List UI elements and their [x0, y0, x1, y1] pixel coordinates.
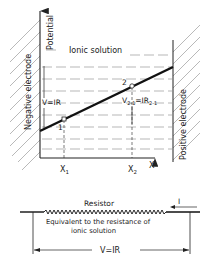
point-2-marker — [130, 84, 134, 88]
resistor-label: Resistor — [84, 199, 115, 208]
point-1-label: 1 — [58, 123, 63, 132]
voltage-label-left: V=IR — [42, 98, 61, 107]
point-1-marker — [62, 117, 66, 121]
x1-label: X1 — [60, 165, 69, 175]
circuit-voltage-label: V=IR — [100, 246, 121, 255]
x-axis-label: X — [149, 161, 155, 170]
positive-electrode-label: Positive electrode — [179, 89, 188, 160]
voltage-span-arrowhead-left — [34, 248, 40, 252]
current-label: I — [178, 197, 180, 206]
ionic-solution-potential-diagram: Potential Negative electrode Positive el… — [0, 0, 207, 264]
resistor-zigzag — [44, 210, 166, 214]
voltage-span-arrowhead-right — [183, 248, 189, 252]
ionic-solution-label: Ionic solution — [69, 46, 122, 55]
segment-voltage-label: V2-1=IR2-1 — [122, 96, 157, 106]
potential-axis-label: Potential — [46, 15, 55, 50]
current-arrow-head — [170, 205, 175, 209]
equivalent-text-line1: Equivalent to the resistance of — [46, 218, 151, 226]
x2-label: X2 — [128, 165, 137, 175]
negative-electrode-label: Negative electrode — [24, 54, 33, 130]
equivalent-text-line2: ionic solution — [71, 227, 116, 235]
point-2-label: 2 — [122, 78, 127, 87]
